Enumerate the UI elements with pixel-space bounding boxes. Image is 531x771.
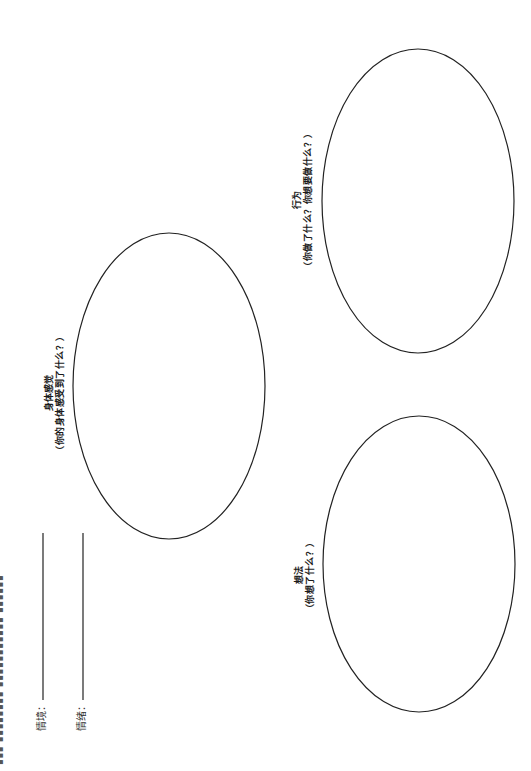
body-sensation-title: 身体感觉	[44, 328, 55, 458]
thoughts-title: 想法	[294, 534, 305, 616]
body-sensation-label: 身体感觉 （你的身体感受到了什么？）	[44, 328, 67, 458]
thoughts-prompt: （你想了什么？）	[305, 534, 316, 616]
behavior-bubble[interactable]	[322, 49, 514, 353]
emotion-label: 情绪：	[76, 701, 89, 731]
behavior-prompt: （你做了什么？你想要做什么？）	[303, 117, 314, 282]
body-sensation-prompt: （你的身体感受到了什么？）	[55, 328, 66, 458]
behavior-title: 行为	[292, 117, 303, 282]
worksheet-page: ▪▪▪ ▪▪▪▪▪▪▪▪ ▪▪▪▪▪▪▪▪▪▪▪ ▪▪▪▪▪▪ 情境： 情绪： …	[0, 0, 531, 771]
thoughts-bubble[interactable]	[323, 416, 515, 712]
cropped-edge-text: ▪▪▪ ▪▪▪▪▪▪▪▪ ▪▪▪▪▪▪▪▪▪▪▪ ▪▪▪▪▪▪	[0, 575, 6, 765]
thoughts-label: 想法 （你想了什么？）	[294, 534, 317, 616]
situation-label: 情境：	[36, 701, 49, 731]
worksheet-shapes	[0, 0, 531, 771]
body-sensation-bubble[interactable]	[73, 233, 265, 539]
behavior-label: 行为 （你做了什么？你想要做什么？）	[292, 117, 315, 282]
